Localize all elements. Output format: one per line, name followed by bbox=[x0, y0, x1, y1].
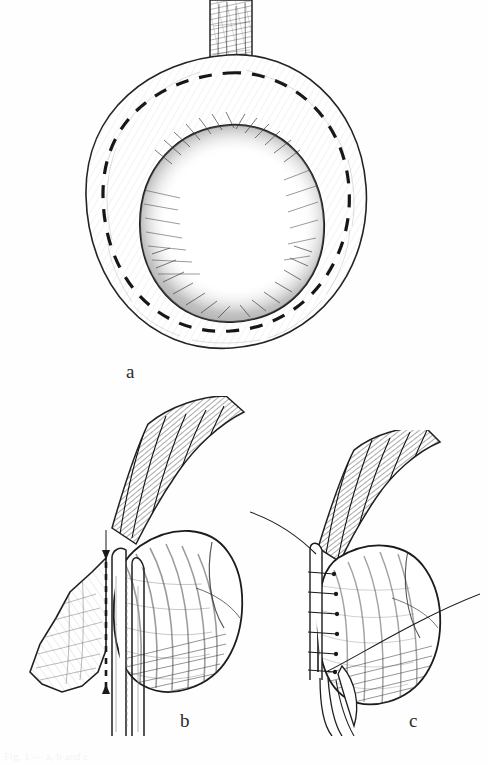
suture-tail-c bbox=[250, 512, 316, 554]
panel-label-b: b bbox=[180, 711, 190, 730]
panel-b-illustration bbox=[20, 396, 260, 736]
panel-c-illustration bbox=[250, 430, 480, 736]
organ-body-b bbox=[114, 531, 243, 694]
figure-caption-strip: Fig. 1 — a, b and c bbox=[0, 748, 488, 765]
arrow-down-marker-b bbox=[102, 550, 110, 560]
panel-label-c: c bbox=[409, 711, 417, 730]
figure-page: a b c Fig. 1 — a, b and c bbox=[0, 0, 488, 765]
arrow-up-marker-b bbox=[102, 684, 110, 694]
figure-caption-text: Fig. 1 — a, b and c bbox=[0, 748, 488, 765]
panel-label-a: a bbox=[126, 362, 134, 381]
panel-a-illustration bbox=[60, 0, 400, 400]
